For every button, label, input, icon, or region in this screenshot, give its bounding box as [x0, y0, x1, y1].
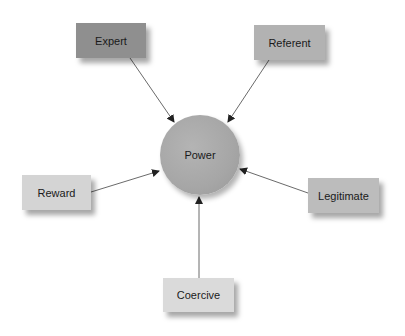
coercive-node: Coercive — [163, 278, 234, 312]
referent-label: Referent — [268, 37, 310, 49]
arrow-referent-power — [228, 60, 269, 122]
power-node: Power — [160, 115, 240, 195]
referent-node: Referent — [254, 25, 325, 60]
legitimate-label: Legitimate — [318, 190, 369, 202]
reward-node: Reward — [22, 175, 91, 210]
expert-node: Expert — [76, 23, 146, 58]
reward-label: Reward — [38, 187, 76, 199]
expert-label: Expert — [95, 35, 127, 47]
power-label: Power — [184, 149, 215, 161]
coercive-label: Coercive — [177, 289, 220, 301]
arrow-expert-power — [130, 58, 174, 122]
legitimate-node: Legitimate — [308, 178, 379, 213]
arrow-legitimate-power — [240, 169, 308, 193]
arrow-reward-power — [91, 171, 159, 192]
